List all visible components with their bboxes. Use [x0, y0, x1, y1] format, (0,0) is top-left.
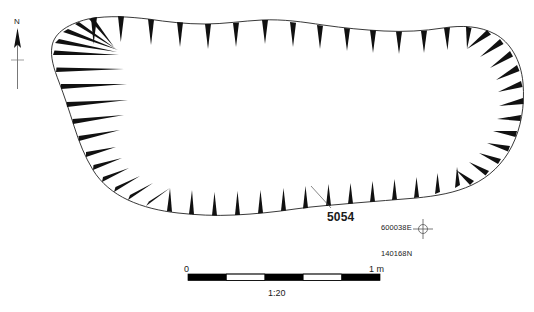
site-plan-figure: N 5054 600038E 140168N 0 1 m 1:20	[0, 0, 534, 312]
scale-ratio-label: 1:20	[268, 288, 286, 298]
survey-crosshair-icon	[413, 219, 433, 239]
hachure-group-right	[456, 30, 524, 185]
hachure-group-top	[91, 16, 472, 54]
hachure-group-bottom	[167, 167, 460, 216]
scale-bar-min-label: 0	[184, 264, 189, 274]
coordinate-easting: 600038E	[381, 224, 412, 233]
context-number-label: 5054	[327, 211, 355, 225]
hachure-group-lower-left	[86, 147, 170, 206]
scale-bar-max-label: 1 m	[369, 264, 384, 274]
coordinate-northing: 140168N	[381, 250, 412, 259]
scale-bar	[188, 274, 380, 281]
hachure-group-upper-left	[55, 19, 118, 53]
north-arrow-icon	[11, 28, 24, 89]
plan-drawing	[0, 0, 534, 312]
north-arrow-label: N	[14, 17, 20, 26]
survey-coordinates: 600038E 140168N	[381, 207, 412, 276]
